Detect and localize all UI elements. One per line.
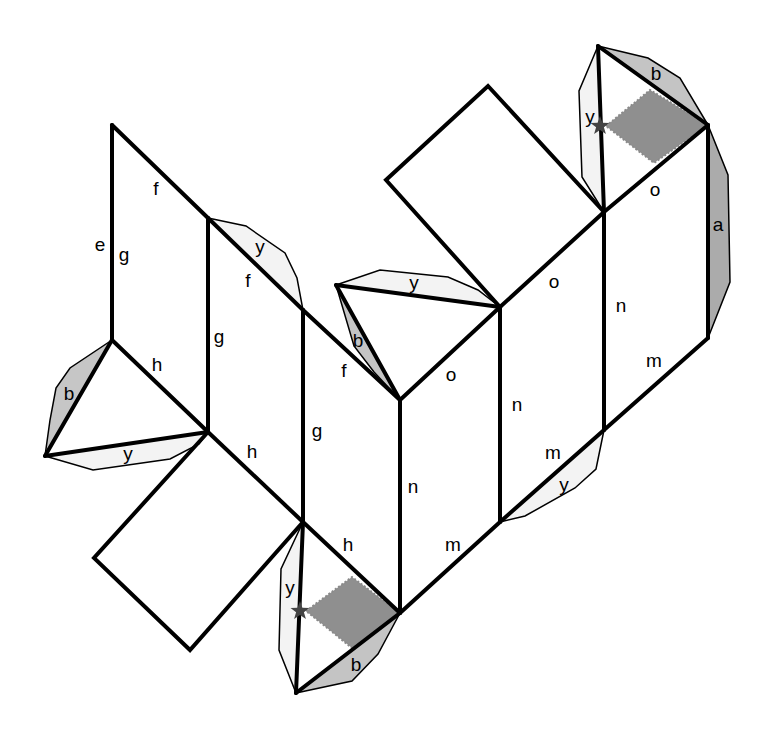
- edge-label: g: [214, 326, 225, 347]
- edge-label: f: [153, 178, 159, 199]
- edge-label: f: [245, 270, 251, 291]
- edge-label: n: [616, 295, 627, 316]
- edge-labels: f e g y f g h b y h g f b y o n n o n m …: [64, 63, 724, 675]
- edge-label: b: [353, 330, 364, 351]
- edge-label: h: [343, 534, 354, 555]
- edge-label: y: [559, 474, 569, 495]
- polyhedron-net-diagram: f e g y f g h b y h g f b y o n n o n m …: [0, 0, 762, 732]
- edge-label: n: [512, 394, 523, 415]
- edge-f-top-1: [112, 125, 208, 218]
- edge-b-middle: [336, 285, 400, 400]
- edge-label: y: [585, 106, 595, 127]
- edge-label: o: [650, 179, 661, 200]
- edge-label: e: [95, 234, 106, 255]
- glue-tabs: [45, 46, 730, 693]
- edge-label: a: [713, 214, 724, 235]
- edge-o-2: [500, 212, 604, 307]
- edge-label: g: [312, 420, 323, 441]
- edge-label: b: [351, 654, 362, 675]
- edge-label: o: [446, 364, 457, 385]
- edge-label: m: [445, 534, 461, 555]
- edge-label: y: [255, 236, 265, 257]
- edge-label: h: [152, 354, 163, 375]
- edge-label: m: [545, 442, 561, 463]
- edge-label: h: [247, 441, 258, 462]
- edge-o-1: [400, 307, 500, 400]
- edge-label: y: [123, 443, 133, 464]
- edge-label: b: [651, 63, 662, 84]
- edge-label: g: [119, 244, 130, 265]
- edge-label: o: [549, 271, 560, 292]
- edge-label: n: [408, 476, 419, 497]
- edge-label: f: [341, 360, 347, 381]
- edge-label: m: [646, 350, 662, 371]
- edge-label: y: [409, 272, 419, 293]
- edge-label: y: [285, 577, 295, 598]
- edge-label: b: [64, 383, 75, 404]
